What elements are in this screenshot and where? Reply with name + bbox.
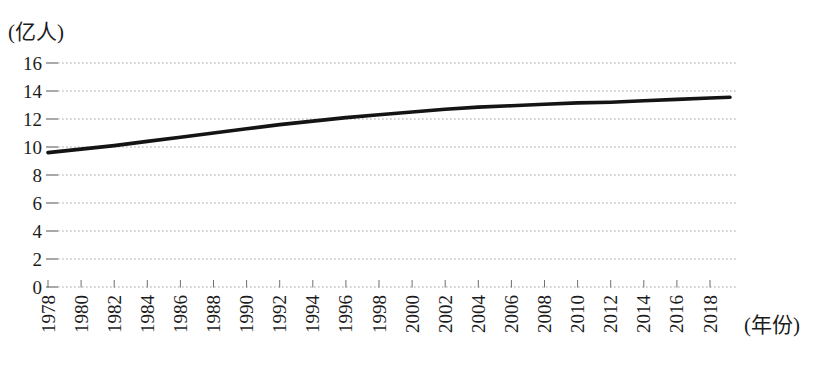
x-tick-label: 1984 bbox=[137, 295, 158, 334]
x-tick-label: 1996 bbox=[335, 295, 356, 333]
population-chart-page: 0246810121416 19781980198219841986198819… bbox=[0, 0, 820, 374]
x-tick-label: 2000 bbox=[402, 295, 423, 333]
x-tick-label: 1998 bbox=[369, 295, 390, 333]
y-tick-label: 2 bbox=[33, 249, 43, 270]
x-tick-label: 1990 bbox=[236, 295, 257, 333]
y-tick-label: 14 bbox=[23, 81, 43, 102]
y-axis-unit-label: (亿人) bbox=[8, 20, 64, 44]
x-tick-label: 2006 bbox=[501, 295, 522, 333]
population-line-series bbox=[48, 97, 730, 152]
x-tick-label: 2008 bbox=[534, 295, 555, 333]
x-tick-label: 2002 bbox=[435, 295, 456, 333]
x-tick-label: 1992 bbox=[269, 295, 290, 333]
y-axis-tick-labels: 0246810121416 bbox=[23, 53, 43, 298]
x-tick-label: 1994 bbox=[302, 295, 323, 334]
x-tick-label: 2012 bbox=[600, 295, 621, 333]
y-tick-label: 16 bbox=[23, 53, 42, 74]
population-line-chart: 0246810121416 19781980198219841986198819… bbox=[0, 0, 820, 374]
x-tick-label: 1982 bbox=[104, 295, 125, 333]
y-tick-label: 12 bbox=[23, 109, 42, 130]
y-tick-label: 4 bbox=[33, 221, 43, 242]
x-tick-label: 2014 bbox=[633, 295, 654, 334]
x-tick-label: 2010 bbox=[567, 295, 588, 333]
gridlines bbox=[46, 63, 737, 287]
x-tick-label: 2018 bbox=[700, 295, 721, 333]
y-tick-label: 8 bbox=[33, 165, 43, 186]
y-tick-label: 0 bbox=[33, 277, 43, 298]
x-axis-unit-label: (年份) bbox=[744, 313, 800, 337]
y-tick-label: 10 bbox=[23, 137, 42, 158]
x-tick-label: 2004 bbox=[468, 295, 489, 334]
x-tick-label: 2016 bbox=[666, 295, 687, 333]
y-tick-label: 6 bbox=[33, 193, 43, 214]
x-axis-ticks bbox=[48, 280, 710, 288]
x-tick-label: 1986 bbox=[170, 295, 191, 333]
x-tick-label: 1980 bbox=[71, 295, 92, 333]
x-tick-label: 1978 bbox=[38, 295, 59, 333]
x-axis-tick-labels: 1978198019821984198619881990199219941996… bbox=[38, 295, 721, 334]
x-tick-label: 1988 bbox=[203, 295, 224, 333]
